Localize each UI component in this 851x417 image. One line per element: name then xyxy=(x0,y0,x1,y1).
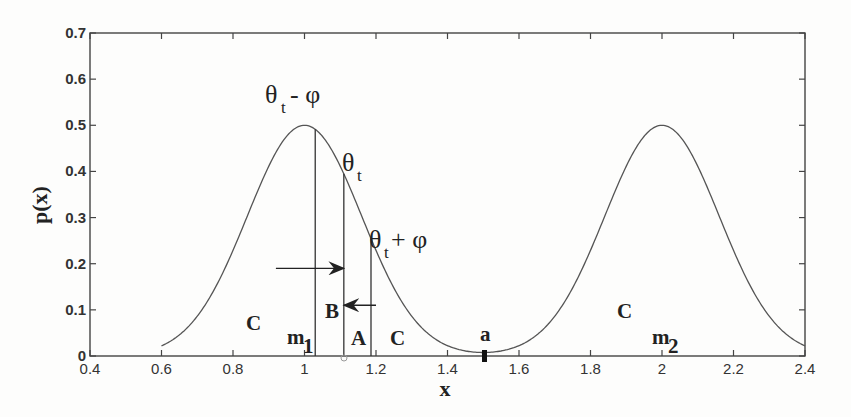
y-tick-label: 0.3 xyxy=(65,209,86,226)
region-c-label-left: C xyxy=(246,311,261,335)
density-chart: 0.40.60.811.21.41.61.822.22.400.10.20.30… xyxy=(0,0,851,417)
x-tick-label: 1.6 xyxy=(509,360,530,377)
region-c-label-mid: C xyxy=(390,326,405,350)
svg-text:+ φ: + φ xyxy=(391,225,427,254)
svg-text:t: t xyxy=(384,243,389,262)
x-axis-title: x xyxy=(440,376,451,401)
x-tick-label: 1.4 xyxy=(437,360,458,377)
axis-ticks: 0.40.60.811.21.41.61.822.22.400.10.20.30… xyxy=(65,24,815,377)
svg-text:θ: θ xyxy=(265,80,277,109)
svg-text:t: t xyxy=(357,166,362,185)
region-a-label: A xyxy=(351,326,367,350)
y-tick-label: 0.2 xyxy=(65,255,86,272)
svg-text:- φ: - φ xyxy=(290,80,320,109)
x-tick-label: 0.6 xyxy=(151,360,172,377)
theta-minus-phi-label: θ t - φ xyxy=(265,80,320,117)
x-tick-label: 0.8 xyxy=(223,360,244,377)
plot-frame xyxy=(90,33,805,356)
theta-plus-phi-label: θ t + φ xyxy=(369,225,427,262)
x-tick-label: 1.8 xyxy=(580,360,601,377)
svg-text:θ: θ xyxy=(342,148,354,177)
x-tick-label: 1.2 xyxy=(366,360,387,377)
svg-text:t: t xyxy=(281,98,286,117)
y-tick-label: 0.4 xyxy=(65,162,87,179)
y-tick-label: 0.6 xyxy=(65,70,86,87)
y-tick-label: 0.1 xyxy=(65,301,86,318)
y-tick-label: 0.5 xyxy=(65,116,86,133)
svg-text:θ: θ xyxy=(369,225,381,254)
y-tick-label: 0.7 xyxy=(65,24,86,41)
point-a-label: a xyxy=(480,322,491,346)
m1-label: m 1 xyxy=(287,325,314,358)
m2-label: m 2 xyxy=(652,325,679,358)
svg-text:2: 2 xyxy=(668,334,679,358)
x-tick-label: 1 xyxy=(300,360,308,377)
point-a-marker xyxy=(482,350,487,362)
y-tick-label: 0 xyxy=(78,347,86,364)
theta-label: θ t xyxy=(342,148,362,185)
region-b-label: B xyxy=(325,299,339,323)
svg-text:1: 1 xyxy=(303,334,314,358)
y-axis-title: p(x) xyxy=(27,186,52,224)
x-tick-label: 2 xyxy=(658,360,666,377)
region-c-label-right: C xyxy=(617,299,632,323)
x-tick-label: 2.2 xyxy=(723,360,744,377)
x-tick-label: 2.4 xyxy=(795,360,816,377)
